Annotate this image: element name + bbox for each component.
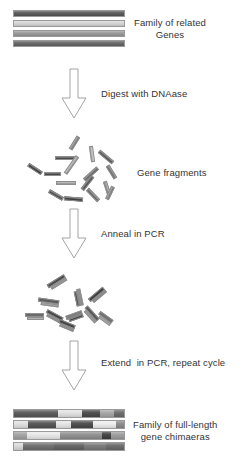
chimaera-segment bbox=[58, 410, 82, 417]
gene-fragment bbox=[86, 188, 100, 202]
annealed-fragment-pair bbox=[88, 287, 107, 305]
chimaera-segment bbox=[14, 432, 27, 439]
chimaera-segment bbox=[27, 432, 60, 439]
fragment-sheen bbox=[70, 137, 79, 149]
annealed-fragment-pair bbox=[25, 313, 44, 320]
fragment-sheen bbox=[45, 173, 60, 175]
gene-fragment bbox=[48, 189, 64, 200]
chimaera-segment bbox=[71, 421, 93, 428]
chimaera-segment bbox=[23, 443, 54, 450]
gene-chimaera-bar bbox=[13, 431, 125, 440]
annealed-fragment-pair bbox=[38, 298, 60, 308]
label-digest-with-dnaase: Digest with DNAase bbox=[101, 88, 187, 100]
gene-fragment bbox=[106, 165, 117, 180]
annealed-fragment-pair bbox=[96, 311, 113, 326]
label-gene-fragments: Gene fragments bbox=[137, 167, 207, 179]
label-gene-chimaeras: Family of full-lengthgene chimaeras bbox=[133, 419, 217, 442]
bar-sheen bbox=[14, 41, 124, 46]
fragment-sheen bbox=[29, 164, 42, 173]
gene-bar bbox=[13, 30, 125, 37]
chimaera-segment bbox=[111, 432, 124, 439]
fragment-sheen bbox=[57, 182, 75, 184]
gene-fragment bbox=[27, 163, 43, 175]
label-line-1: Family of full-length bbox=[133, 419, 217, 430]
chimaera-segment bbox=[100, 410, 114, 417]
gene-fragment bbox=[98, 150, 114, 165]
chimaera-segment bbox=[14, 443, 23, 450]
chimaera-segment bbox=[93, 421, 116, 428]
chimaera-segment bbox=[84, 443, 106, 450]
chimaera-segment bbox=[14, 410, 58, 417]
label-line-2: Genes bbox=[156, 29, 185, 40]
gene-fragment bbox=[64, 196, 83, 202]
label-line-1: Family of related bbox=[134, 17, 206, 28]
label-family-of-genes: Family of relatedGenes bbox=[134, 17, 206, 40]
chimaera-segment bbox=[14, 421, 28, 428]
gene-fragment bbox=[89, 146, 95, 162]
bar-sheen bbox=[14, 21, 124, 26]
arrow-anneal bbox=[60, 208, 88, 260]
fragment-sheen bbox=[56, 157, 74, 159]
fragment-sheen bbox=[99, 151, 113, 163]
label-anneal-in-pcr: Anneal in PCR bbox=[101, 228, 165, 240]
gene-bar bbox=[13, 10, 125, 17]
bar-sheen bbox=[14, 11, 124, 16]
chimaera-segment bbox=[116, 421, 124, 428]
gene-fragment bbox=[56, 181, 76, 185]
annealed-fragment-pair bbox=[47, 274, 68, 291]
chimaera-segment bbox=[114, 410, 124, 417]
down-arrow-icon bbox=[60, 68, 88, 120]
diagram-canvas: Family of relatedGenes Digest with DNAas… bbox=[0, 0, 239, 462]
fragment-sheen bbox=[65, 197, 82, 200]
chimaera-segment bbox=[28, 421, 56, 428]
chimaera-segment bbox=[54, 443, 85, 450]
down-arrow-icon bbox=[60, 340, 88, 392]
arrow-extend bbox=[60, 340, 88, 392]
gene-bar bbox=[13, 20, 125, 27]
gene-bar bbox=[13, 40, 125, 47]
fragment-strand bbox=[27, 317, 44, 321]
down-arrow-icon bbox=[60, 208, 88, 260]
label-extend-in-pcr: Extend in PCR, repeat cycle bbox=[101, 357, 225, 369]
gene-chimaera-bar bbox=[13, 409, 125, 418]
chimaera-segment bbox=[102, 432, 111, 439]
arrow-digest bbox=[60, 68, 88, 120]
gene-fragment bbox=[69, 136, 80, 151]
annealed-fragment-pair bbox=[57, 319, 75, 332]
chimaera-segment bbox=[56, 421, 71, 428]
gene-chimaera-bar bbox=[13, 420, 125, 429]
chimaera-segment bbox=[60, 432, 102, 439]
gene-fragment bbox=[44, 172, 61, 176]
chimaera-segment bbox=[106, 443, 124, 450]
fragment-sheen bbox=[90, 147, 94, 161]
gene-chimaera-bar bbox=[13, 442, 125, 451]
label-line-2: gene chimaeras bbox=[141, 431, 210, 442]
chimaera-segment bbox=[82, 410, 100, 417]
fragment-sheen bbox=[49, 191, 62, 200]
fragment-sheen bbox=[107, 166, 116, 178]
bar-sheen bbox=[14, 31, 124, 36]
fragment-sheen bbox=[87, 189, 98, 200]
annealed-fragment-pair bbox=[65, 310, 83, 322]
annealed-fragment-pair bbox=[73, 288, 83, 306]
